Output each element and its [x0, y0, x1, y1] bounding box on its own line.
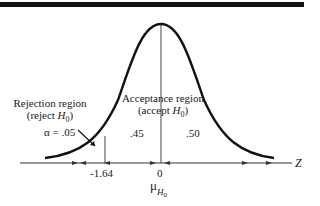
alpha-label: α = .05 — [44, 126, 75, 138]
right-acceptance-area: .50 — [186, 127, 200, 139]
acceptance-region-title: Acceptance region — [118, 92, 208, 104]
bell-curve — [45, 24, 274, 158]
acceptance-region-subtitle: (accept H0) — [118, 104, 208, 118]
acceptance-region-label: Acceptance region (accept H0) — [118, 92, 208, 118]
z-axis-label: Z — [295, 157, 302, 169]
left-acceptance-area: .45 — [130, 127, 144, 139]
rejection-region-title: Rejection region — [10, 97, 90, 109]
mean-label: μH0 — [150, 180, 167, 194]
rejection-region-subtitle: (reject H0) — [10, 109, 90, 123]
tick-zero: 0 — [157, 167, 163, 179]
rejection-region-label: Rejection region (reject H0) — [10, 97, 90, 123]
tick-critical-value: -1.64 — [90, 167, 113, 179]
